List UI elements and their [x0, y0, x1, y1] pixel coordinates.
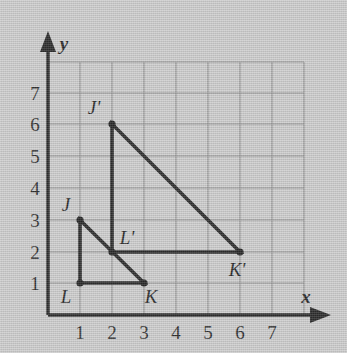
axes	[40, 31, 331, 323]
y-axis-arrowhead	[40, 31, 56, 52]
x-tick-labels: 1 2 3 4 5 6 7	[75, 322, 277, 343]
x-tick-label-3: 3	[139, 322, 149, 343]
vertex-label-k: K	[144, 286, 159, 307]
vertex-label-l: L	[60, 286, 72, 307]
vertex-labels: J L K J' L' K'	[60, 97, 247, 307]
x-axis-arrowhead	[310, 307, 331, 323]
x-tick-label-5: 5	[203, 322, 213, 343]
x-tick-label-4: 4	[171, 322, 181, 343]
coordinate-plane-figure: x y 1 2 3 4 5 6 7 1 2 3 4 5 6 7	[0, 0, 347, 353]
x-tick-label-2: 2	[107, 322, 117, 343]
vertex-label-l-prime: L'	[119, 227, 136, 248]
x-tick-label-7: 7	[267, 322, 277, 343]
x-axis-label: x	[300, 286, 311, 307]
y-tick-label-4: 4	[30, 178, 40, 199]
vertex-point-l	[76, 279, 83, 286]
y-tick-label-6: 6	[30, 114, 40, 135]
vertex-point-j	[76, 216, 83, 223]
x-tick-label-6: 6	[235, 322, 245, 343]
vertex-point-j-prime	[108, 120, 115, 127]
vertex-label-k-prime: K'	[228, 259, 247, 280]
y-tick-label-2: 2	[30, 242, 40, 263]
y-tick-label-7: 7	[30, 83, 40, 104]
y-tick-label-1: 1	[30, 273, 40, 294]
vertex-label-j: J	[62, 194, 72, 215]
y-tick-labels: 1 2 3 4 5 6 7	[30, 83, 40, 294]
y-tick-label-5: 5	[30, 146, 40, 167]
vertex-label-j-prime: J'	[88, 97, 101, 118]
y-tick-label-3: 3	[30, 210, 40, 231]
vertex-markers	[76, 120, 243, 286]
vertex-point-l-prime	[108, 248, 115, 255]
vertex-point-k-prime	[236, 248, 243, 255]
x-tick-label-1: 1	[75, 322, 85, 343]
figure-root: x y 1 2 3 4 5 6 7 1 2 3 4 5 6 7	[0, 0, 347, 353]
y-axis-label: y	[58, 33, 69, 54]
